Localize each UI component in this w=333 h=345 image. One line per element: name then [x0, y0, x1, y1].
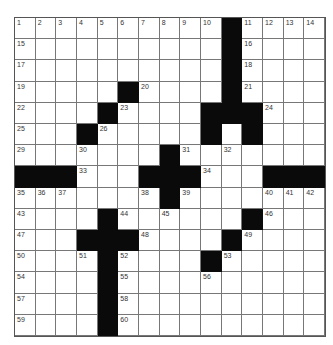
crossword-cell[interactable] [139, 124, 160, 145]
crossword-cell[interactable] [160, 294, 181, 315]
crossword-cell[interactable]: 56 [201, 272, 222, 293]
crossword-cell[interactable] [284, 272, 305, 293]
crossword-cell[interactable] [98, 166, 119, 187]
crossword-cell[interactable]: 6 [118, 18, 139, 39]
crossword-cell[interactable] [56, 209, 77, 230]
crossword-cell[interactable] [139, 251, 160, 272]
crossword-cell[interactable] [180, 251, 201, 272]
crossword-cell[interactable] [180, 103, 201, 124]
crossword-cell[interactable] [304, 230, 325, 251]
crossword-cell[interactable] [160, 230, 181, 251]
crossword-cell[interactable] [304, 272, 325, 293]
crossword-cell[interactable]: 11 [242, 18, 263, 39]
crossword-cell[interactable] [242, 251, 263, 272]
crossword-cell[interactable]: 57 [15, 294, 36, 315]
crossword-cell[interactable]: 17 [15, 60, 36, 81]
crossword-cell[interactable]: 20 [139, 82, 160, 103]
crossword-cell[interactable] [56, 124, 77, 145]
crossword-cell[interactable] [160, 39, 181, 60]
crossword-cell[interactable] [56, 103, 77, 124]
crossword-cell[interactable] [263, 294, 284, 315]
crossword-cell[interactable]: 10 [201, 18, 222, 39]
crossword-cell[interactable]: 24 [263, 103, 284, 124]
crossword-cell[interactable] [201, 230, 222, 251]
crossword-cell[interactable] [36, 315, 57, 336]
crossword-cell[interactable] [304, 294, 325, 315]
crossword-cell[interactable] [139, 145, 160, 166]
crossword-cell[interactable]: 7 [139, 18, 160, 39]
crossword-cell[interactable]: 48 [139, 230, 160, 251]
crossword-cell[interactable] [118, 39, 139, 60]
crossword-cell[interactable]: 37 [56, 188, 77, 209]
crossword-cell[interactable] [242, 145, 263, 166]
crossword-cell[interactable]: 55 [118, 272, 139, 293]
crossword-cell[interactable]: 31 [180, 145, 201, 166]
crossword-cell[interactable]: 32 [222, 145, 243, 166]
crossword-cell[interactable]: 36 [36, 188, 57, 209]
crossword-cell[interactable] [98, 145, 119, 166]
crossword-cell[interactable] [222, 166, 243, 187]
crossword-cell[interactable] [242, 315, 263, 336]
crossword-cell[interactable]: 18 [242, 60, 263, 81]
crossword-cell[interactable] [36, 124, 57, 145]
crossword-cell[interactable] [160, 251, 181, 272]
crossword-cell[interactable]: 19 [15, 82, 36, 103]
crossword-cell[interactable]: 40 [263, 188, 284, 209]
crossword-cell[interactable]: 25 [15, 124, 36, 145]
crossword-cell[interactable] [284, 124, 305, 145]
crossword-cell[interactable]: 34 [201, 166, 222, 187]
crossword-cell[interactable] [222, 188, 243, 209]
crossword-cell[interactable] [139, 209, 160, 230]
crossword-cell[interactable] [160, 272, 181, 293]
crossword-cell[interactable] [201, 39, 222, 60]
crossword-cell[interactable] [160, 60, 181, 81]
crossword-cell[interactable] [201, 188, 222, 209]
crossword-cell[interactable] [56, 82, 77, 103]
crossword-cell[interactable]: 22 [15, 103, 36, 124]
crossword-cell[interactable] [56, 251, 77, 272]
crossword-cell[interactable] [118, 166, 139, 187]
crossword-cell[interactable] [263, 82, 284, 103]
crossword-cell[interactable] [139, 272, 160, 293]
crossword-cell[interactable] [242, 188, 263, 209]
crossword-cell[interactable] [180, 315, 201, 336]
crossword-cell[interactable] [180, 230, 201, 251]
crossword-cell[interactable] [222, 272, 243, 293]
crossword-cell[interactable] [180, 82, 201, 103]
crossword-cell[interactable] [284, 251, 305, 272]
crossword-cell[interactable] [263, 315, 284, 336]
crossword-cell[interactable]: 58 [118, 294, 139, 315]
crossword-cell[interactable]: 33 [77, 166, 98, 187]
crossword-cell[interactable] [56, 145, 77, 166]
crossword-cell[interactable] [284, 39, 305, 60]
crossword-cell[interactable] [77, 294, 98, 315]
crossword-cell[interactable] [222, 315, 243, 336]
crossword-cell[interactable] [304, 82, 325, 103]
crossword-cell[interactable]: 51 [77, 251, 98, 272]
crossword-cell[interactable] [263, 251, 284, 272]
crossword-cell[interactable] [222, 124, 243, 145]
crossword-cell[interactable]: 41 [284, 188, 305, 209]
crossword-cell[interactable]: 29 [15, 145, 36, 166]
crossword-cell[interactable]: 9 [180, 18, 201, 39]
crossword-cell[interactable] [77, 82, 98, 103]
crossword-cell[interactable]: 35 [15, 188, 36, 209]
crossword-cell[interactable] [77, 272, 98, 293]
crossword-cell[interactable] [160, 124, 181, 145]
crossword-cell[interactable] [263, 39, 284, 60]
crossword-cell[interactable]: 4 [77, 18, 98, 39]
crossword-cell[interactable] [36, 294, 57, 315]
crossword-cell[interactable] [118, 145, 139, 166]
crossword-cell[interactable]: 1 [15, 18, 36, 39]
crossword-cell[interactable] [263, 230, 284, 251]
crossword-cell[interactable] [304, 315, 325, 336]
crossword-cell[interactable] [180, 209, 201, 230]
crossword-cell[interactable] [36, 103, 57, 124]
crossword-cell[interactable] [98, 60, 119, 81]
crossword-cell[interactable] [36, 145, 57, 166]
crossword-cell[interactable]: 21 [242, 82, 263, 103]
crossword-cell[interactable]: 45 [160, 209, 181, 230]
crossword-cell[interactable]: 14 [304, 18, 325, 39]
crossword-cell[interactable] [304, 209, 325, 230]
crossword-cell[interactable]: 44 [118, 209, 139, 230]
